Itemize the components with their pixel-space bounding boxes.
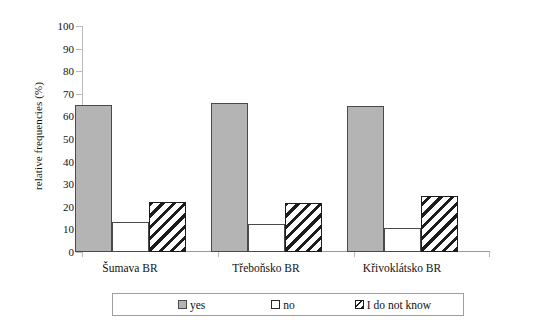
x-category-label: Třeboňsko BR <box>232 262 299 274</box>
x-category-label: Křivoklátsko BR <box>363 262 441 274</box>
bar-i-do-not-know <box>149 202 186 252</box>
bar-i-do-not-know <box>421 196 458 253</box>
x-tick-mark <box>489 252 490 257</box>
chart-root: relative frequencies (%) 100908070605040… <box>0 0 541 327</box>
y-tick-label: 50 <box>40 134 74 145</box>
y-tick-label: 10 <box>40 224 74 235</box>
y-tick-label: 60 <box>40 111 74 122</box>
hatched-swatch-icon <box>355 300 364 309</box>
chart-legend: yes no I do not know <box>112 293 464 316</box>
y-tick-label: 40 <box>40 157 74 168</box>
x-tick-mark <box>354 252 355 257</box>
x-tick-mark <box>218 252 219 257</box>
bar-no <box>112 222 149 253</box>
bar-yes <box>75 105 112 252</box>
bar-yes <box>211 103 248 252</box>
y-tick-mark <box>76 49 82 50</box>
x-category-label: Šumava BR <box>102 262 157 274</box>
legend-label-no: no <box>283 299 295 311</box>
y-tick-label: 90 <box>40 44 74 55</box>
y-tick-label: 100 <box>40 21 74 32</box>
bar-yes <box>347 106 384 252</box>
legend-item-i-do-not-know: I do not know <box>355 299 431 311</box>
legend-label-yes: yes <box>190 299 205 311</box>
y-tick-label: 30 <box>40 179 74 190</box>
y-tick-mark <box>76 26 82 27</box>
white-swatch-icon <box>271 300 280 309</box>
solid-gray-swatch-icon <box>178 300 187 309</box>
y-tick-label: 80 <box>40 66 74 77</box>
legend-item-yes: yes <box>178 299 205 311</box>
bar-no <box>384 228 421 252</box>
y-tick-label: 20 <box>40 202 74 213</box>
plot-area: 1009080706050403020100 <box>82 26 490 252</box>
legend-item-no: no <box>271 299 295 311</box>
legend-label-i-do-not-know: I do not know <box>367 299 431 311</box>
y-tick-mark <box>76 71 82 72</box>
y-tick-label: 70 <box>40 89 74 100</box>
bar-no <box>248 224 285 252</box>
y-tick-label: 0 <box>40 247 74 258</box>
y-tick-mark <box>76 94 82 95</box>
bar-i-do-not-know <box>285 203 322 252</box>
x-tick-mark <box>82 252 83 257</box>
